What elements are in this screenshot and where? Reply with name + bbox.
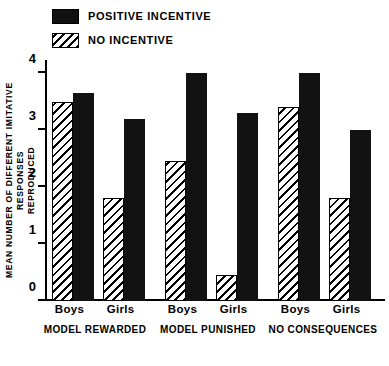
y-tick-label-3: 3 — [29, 108, 36, 123]
y-tick-label-4: 4 — [29, 51, 36, 66]
chart-legend: POSITIVE INCENTIVE NO INCENTIVE — [52, 6, 211, 54]
bar-positive-incentive-girls-model-rewarded — [124, 119, 145, 301]
x-label-boys-3: Boys — [271, 303, 320, 315]
bar-no-incentive-boys-no-consequences — [278, 107, 299, 301]
y-axis-line — [45, 60, 47, 301]
y-tick-label-2: 2 — [29, 165, 36, 180]
legend-swatch-hatch-icon — [52, 33, 79, 48]
bar-positive-incentive-boys-model-punished — [186, 73, 207, 301]
x-label-condition-model-punished: MODEL PUNISHED — [152, 324, 264, 335]
bar-no-incentive-girls-no-consequences — [329, 198, 350, 301]
bar-positive-incentive-girls-model-punished — [237, 113, 258, 301]
y-tick-label-1: 1 — [29, 222, 36, 237]
y-tick-label-0: 0 — [29, 279, 36, 294]
bar-no-incentive-boys-model-rewarded — [52, 102, 73, 302]
legend-swatch-solid-icon — [52, 9, 79, 24]
x-label-girls-1: Girls — [96, 303, 145, 315]
y-axis-title: MEAN NUMBER OF DIFFERENT IMITATIVE RESPO… — [7, 60, 33, 301]
x-axis-labels: Boys Girls MODEL REWARDED Boys Girls MOD… — [45, 303, 385, 363]
bar-no-incentive-girls-model-rewarded — [103, 198, 124, 301]
y-tick-4 — [38, 71, 45, 73]
bar-chart: POSITIVE INCENTIVE NO INCENTIVE MEAN NUM… — [0, 0, 389, 366]
legend-item-no-incentive: NO INCENTIVE — [52, 30, 211, 50]
legend-label-no-incentive: NO INCENTIVE — [88, 34, 173, 46]
x-label-boys-1: Boys — [45, 303, 94, 315]
x-label-girls-2: Girls — [209, 303, 258, 315]
bar-no-incentive-girls-model-punished — [216, 275, 237, 301]
bar-positive-incentive-boys-no-consequences — [299, 73, 320, 301]
y-tick-2 — [38, 185, 45, 187]
bar-positive-incentive-girls-no-consequences — [350, 130, 371, 301]
plot-area: MEAN NUMBER OF DIFFERENT IMITATIVE RESPO… — [45, 60, 385, 301]
x-label-boys-2: Boys — [158, 303, 207, 315]
legend-label-positive-incentive: POSITIVE INCENTIVE — [88, 10, 211, 22]
legend-item-positive-incentive: POSITIVE INCENTIVE — [52, 6, 211, 26]
x-label-girls-3: Girls — [322, 303, 371, 315]
y-axis-title-text: MEAN NUMBER OF DIFFERENT IMITATIVE RESPO… — [4, 60, 37, 301]
x-label-condition-no-consequences: NO CONSEQUENCES — [261, 324, 385, 335]
bar-positive-incentive-boys-model-rewarded — [73, 93, 94, 301]
y-tick-1 — [38, 242, 45, 244]
y-tick-0 — [38, 299, 45, 301]
y-tick-3 — [38, 128, 45, 130]
bar-no-incentive-boys-model-punished — [165, 161, 186, 301]
x-label-condition-model-rewarded: MODEL REWARDED — [39, 324, 151, 335]
